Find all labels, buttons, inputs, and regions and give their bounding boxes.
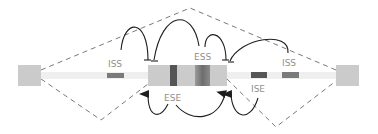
downstream-inclusion-path xyxy=(227,79,336,127)
label-iss-downstream: ISS xyxy=(282,58,296,68)
iss-inhibits-5ss xyxy=(230,39,288,61)
label-ese: ESE xyxy=(164,93,181,103)
downstream-intron xyxy=(227,72,336,79)
ese-activates-5ss-icon xyxy=(176,94,225,117)
alternative-exon xyxy=(148,65,227,86)
label-ise: ISE xyxy=(251,84,265,94)
upstream-inclusion-path xyxy=(41,79,148,120)
splicing-diagram: ISS ESS ESE ISE ISS xyxy=(0,0,378,134)
upstream-exon xyxy=(18,65,41,86)
iss-downstream-element xyxy=(282,72,299,78)
ise-activates-5ss-icon xyxy=(231,94,258,115)
upstream-intron xyxy=(41,72,148,79)
label-iss-upstream: ISS xyxy=(108,59,122,69)
iss-upstream-element xyxy=(107,73,124,78)
ise-element xyxy=(251,72,267,78)
downstream-exon xyxy=(336,65,359,86)
ess-inhibits-3ss xyxy=(154,20,199,60)
ess-element xyxy=(195,65,210,86)
label-ess: ESS xyxy=(194,52,211,62)
ese-element xyxy=(170,65,177,86)
iss-inhibits-3ss xyxy=(121,27,148,60)
